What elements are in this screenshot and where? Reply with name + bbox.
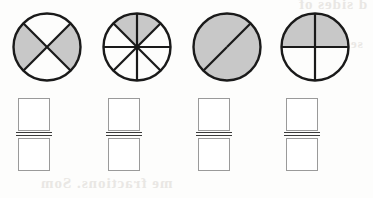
answer-fraction — [18, 98, 54, 171]
fraction-worksheet: d sides of se me fractions. Som — [0, 0, 373, 198]
numerator-input-box[interactable] — [108, 98, 140, 131]
fraction-circle-diagonal-halves — [190, 10, 264, 84]
answer-fraction — [198, 98, 234, 171]
fraction-bar — [106, 132, 142, 136]
problem-row — [0, 0, 373, 198]
denominator-input-box[interactable] — [286, 138, 318, 171]
fraction-problem — [185, 0, 275, 198]
division-line — [137, 47, 161, 71]
fraction-circle-eighths — [100, 10, 174, 84]
fraction-bar — [284, 132, 320, 136]
fraction-bar — [196, 132, 232, 136]
denominator-input-box[interactable] — [108, 138, 140, 171]
fraction-problem — [5, 0, 95, 198]
fraction-circle-quarters — [278, 10, 352, 84]
denominator-input-box[interactable] — [198, 138, 230, 171]
fraction-problem — [95, 0, 185, 198]
fraction-bar — [16, 132, 52, 136]
numerator-input-box[interactable] — [286, 98, 318, 131]
answer-fraction — [108, 98, 144, 171]
numerator-input-box[interactable] — [198, 98, 230, 131]
fraction-circle-diagonal-quarters — [10, 10, 84, 84]
answer-fraction — [286, 98, 322, 171]
denominator-input-box[interactable] — [18, 138, 50, 171]
division-line — [113, 47, 137, 71]
fraction-problem — [273, 0, 363, 198]
numerator-input-box[interactable] — [18, 98, 50, 131]
